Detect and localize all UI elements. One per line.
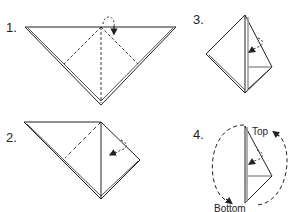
step-1-number: 1. <box>6 20 17 35</box>
step-2: 2. <box>6 122 140 199</box>
step-1: 1. <box>6 17 176 105</box>
rotate-arrow-icon <box>212 125 244 202</box>
step-4-number: 4. <box>193 127 204 142</box>
origami-diagram: 1. 2. 3. 4. <box>0 0 288 212</box>
bottom-label: Bottom <box>214 203 246 212</box>
fold-arrow-icon <box>103 17 114 28</box>
step-4: 4. Top Bottom <box>193 125 287 212</box>
top-label: Top <box>252 126 269 137</box>
step-2-number: 2. <box>6 130 17 145</box>
step-3-number: 3. <box>193 12 204 27</box>
step-3: 3. <box>193 12 272 93</box>
